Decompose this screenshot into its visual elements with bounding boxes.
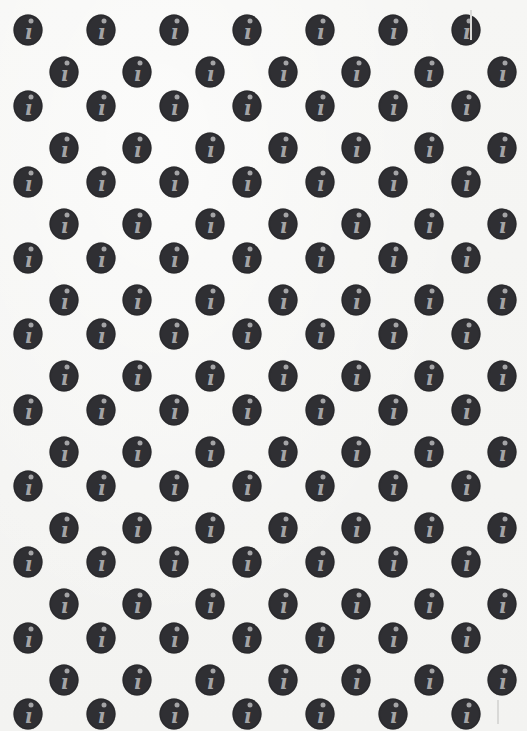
info-glyph: ı [20,477,38,499]
info-glyph: ı [421,519,439,541]
info-icon: ı [488,57,517,88]
info-icon-pattern: ıııııııııııııııııııııııııııııııııııııııı… [0,0,527,731]
info-icon: ı [306,243,335,274]
info-icon: ı [14,395,43,426]
info-glyph: ı [348,139,366,161]
info-icon: ı [160,91,189,122]
info-icon: ı [87,623,116,654]
info-icon: ı [342,665,371,696]
info-glyph: ı [129,671,147,693]
info-icon: ı [233,471,262,502]
info-glyph: ı [93,173,111,195]
info-glyph: ı [93,553,111,575]
info-icon: ı [415,209,444,240]
info-glyph: ı [20,553,38,575]
info-icon: ı [415,361,444,392]
info-icon: ı [123,285,152,316]
info-glyph: ı [312,173,330,195]
info-glyph: ı [275,139,293,161]
info-icon: ı [342,361,371,392]
info-icon: ı [306,167,335,198]
info-glyph: ı [275,215,293,237]
info-icon: ı [233,243,262,274]
info-glyph: ı [275,291,293,313]
info-icon: ı [233,319,262,350]
info-icon: ı [50,361,79,392]
info-glyph: ı [385,553,403,575]
info-icon: ı [160,623,189,654]
info-icon: ı [87,15,116,46]
info-icon: ı [269,209,298,240]
info-icon: ı [50,665,79,696]
info-glyph: ı [275,367,293,389]
info-glyph: ı [458,249,476,271]
info-glyph: ı [129,443,147,465]
info-icon: ı [160,167,189,198]
info-icon: ı [452,395,481,426]
info-glyph: ı [385,477,403,499]
info-glyph: ı [166,173,184,195]
info-icon: ı [306,699,335,730]
info-glyph: ı [494,519,512,541]
info-icon: ı [342,437,371,468]
info-glyph: ı [239,401,257,423]
info-glyph: ı [458,553,476,575]
info-icon: ı [452,623,481,654]
info-glyph: ı [93,401,111,423]
info-glyph: ı [56,215,74,237]
info-glyph: ı [93,477,111,499]
info-glyph: ı [202,367,220,389]
info-icon: ı [14,91,43,122]
info-icon: ı [269,285,298,316]
info-glyph: ı [93,705,111,727]
info-icon: ı [415,665,444,696]
info-icon: ı [488,361,517,392]
info-glyph: ı [56,139,74,161]
info-glyph: ı [129,367,147,389]
info-glyph: ı [166,629,184,651]
info-icon: ı [269,665,298,696]
info-icon: ı [452,471,481,502]
info-glyph: ı [202,215,220,237]
info-icon: ı [233,395,262,426]
info-icon: ı [14,699,43,730]
info-glyph: ı [129,215,147,237]
info-glyph: ı [275,595,293,617]
info-glyph: ı [348,671,366,693]
info-glyph: ı [239,553,257,575]
info-icon: ı [14,623,43,654]
info-glyph: ı [166,21,184,43]
info-glyph: ı [239,325,257,347]
info-glyph: ı [385,97,403,119]
info-icon: ı [269,133,298,164]
info-icon: ı [87,471,116,502]
info-glyph: ı [385,325,403,347]
info-glyph: ı [312,629,330,651]
info-icon: ı [379,167,408,198]
info-glyph: ı [56,595,74,617]
info-glyph: ı [93,21,111,43]
info-glyph: ı [166,553,184,575]
edge-scratch [470,10,472,40]
info-icon: ı [160,15,189,46]
info-icon: ı [196,133,225,164]
info-icon: ı [233,91,262,122]
info-glyph: ı [312,249,330,271]
info-icon: ı [306,15,335,46]
info-icon: ı [50,589,79,620]
info-glyph: ı [202,595,220,617]
info-glyph: ı [239,97,257,119]
info-icon: ı [415,513,444,544]
info-icon: ı [488,665,517,696]
info-icon: ı [379,623,408,654]
info-icon: ı [379,699,408,730]
info-icon: ı [87,167,116,198]
info-icon: ı [452,243,481,274]
info-glyph: ı [348,443,366,465]
info-glyph: ı [385,173,403,195]
info-glyph: ı [20,629,38,651]
info-glyph: ı [20,21,38,43]
info-icon: ı [233,547,262,578]
info-icon: ı [87,395,116,426]
info-glyph: ı [20,401,38,423]
